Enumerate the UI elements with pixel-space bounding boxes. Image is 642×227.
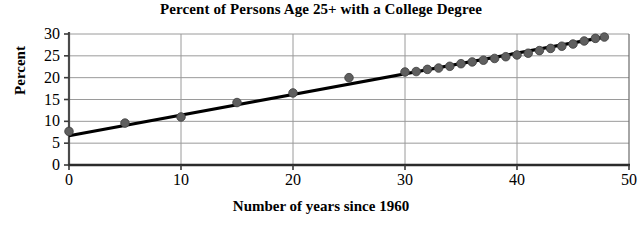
x-tick-label: 40 (497, 172, 537, 188)
data-point (546, 44, 555, 53)
data-point (600, 33, 609, 42)
y-tick-label: 0 (20, 157, 60, 173)
y-tick-label: 15 (20, 92, 60, 108)
data-point (434, 64, 443, 73)
gridlines-horizontal (69, 34, 629, 143)
x-tick-label: 30 (385, 172, 425, 188)
y-tick-label: 5 (20, 135, 60, 151)
data-point (524, 49, 533, 58)
x-tick-label: 50 (609, 172, 642, 188)
plot-area (0, 0, 642, 227)
data-point (502, 52, 511, 61)
x-tick-label: 0 (49, 172, 89, 188)
data-point (121, 119, 130, 128)
data-point (423, 65, 432, 74)
y-tick-label: 10 (20, 113, 60, 129)
chart-figure: Percent of Persons Age 25+ with a Colleg… (0, 0, 642, 227)
data-point (591, 34, 600, 43)
data-point (289, 89, 298, 98)
data-point (580, 37, 589, 46)
data-point (177, 113, 186, 122)
y-tick-label: 20 (20, 70, 60, 86)
data-point (513, 51, 522, 60)
x-tick-label: 10 (161, 172, 201, 188)
data-point (490, 54, 499, 63)
data-point (479, 56, 488, 65)
data-point (412, 67, 421, 76)
y-tick-label: 30 (20, 26, 60, 42)
data-point (468, 58, 477, 67)
x-tick-label: 20 (273, 172, 313, 188)
data-point (569, 40, 578, 49)
data-point (558, 42, 567, 51)
data-point (457, 59, 466, 68)
data-point (65, 127, 74, 136)
data-point (233, 98, 242, 107)
y-tick-label: 25 (20, 48, 60, 64)
data-point (401, 68, 410, 77)
data-point (535, 46, 544, 55)
data-point (446, 62, 455, 71)
data-point (345, 73, 354, 82)
